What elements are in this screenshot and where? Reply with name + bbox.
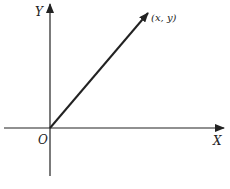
vector-label: (x, y) <box>151 12 177 23</box>
y-axis-label: Y <box>35 5 44 19</box>
origin-label: O <box>38 133 48 147</box>
x-axis-label: X <box>212 134 222 148</box>
coordinate-diagram: Y X O (x, y) <box>0 0 230 189</box>
position-vector <box>50 13 148 128</box>
